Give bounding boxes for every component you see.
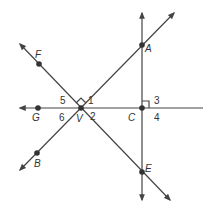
point-G [35, 105, 41, 111]
angle-label-1: 1 [88, 95, 94, 106]
label-B: B [34, 158, 41, 169]
point-B [34, 150, 40, 156]
geometry-diagram: A C E V F G B 1 2 3 4 5 6 [0, 0, 214, 205]
point-C [139, 105, 145, 111]
angle-label-4: 4 [154, 112, 160, 123]
point-V [78, 105, 84, 111]
angle-label-6: 6 [59, 112, 65, 123]
label-F: F [35, 49, 42, 60]
right-angle-mark-V [76, 98, 86, 103]
point-E [139, 169, 145, 175]
line-BA [20, 13, 174, 170]
label-C: C [128, 112, 136, 123]
label-A: A [144, 43, 152, 54]
label-E: E [145, 163, 152, 174]
label-V: V [76, 113, 84, 124]
label-G: G [32, 112, 40, 123]
point-A [139, 42, 145, 48]
angle-label-5: 5 [60, 95, 66, 106]
angle-label-2: 2 [90, 111, 96, 122]
angle-label-3: 3 [154, 95, 160, 106]
point-F [36, 61, 42, 67]
line-FE [20, 44, 170, 200]
